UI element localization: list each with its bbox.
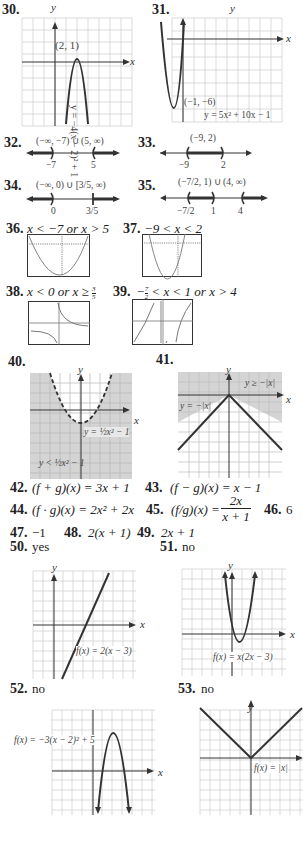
problem-number-35: 35. [138,178,156,194]
tick-label: 1 [211,206,216,216]
y-axis-label: y [228,559,233,571]
answer-53: no [201,681,214,697]
calculator-screen-36 [27,234,90,277]
x-axis-label: x [134,414,139,426]
boundary-equation: y = ½x² − 1 [84,427,129,437]
function-label: f(x) = x(2x − 3) [213,652,273,662]
problem-number-46: 46. [264,502,282,518]
problem-number-41: 41. [156,352,174,368]
interval-notation: (−7/2, 1) ∪ (4, ∞) [178,176,246,187]
fraction: 2x x + 1 [221,493,251,524]
problem-number-39: 39. [113,284,131,300]
region-inequality: y < ½x² − 1 [39,458,84,468]
y-axis-label: y [51,1,56,13]
number-line-32 [26,146,120,160]
problem-number-38: 38. [6,284,24,300]
boundary-equation: y = −|x| [180,401,211,411]
tick-label: −7 [46,160,56,170]
interval-notation: (−9, 2) [190,133,216,143]
fraction: 35 [92,286,96,301]
problem-number-42: 42. [10,480,28,496]
calculator-screen-38 [28,301,90,345]
answer-52: no [32,681,45,697]
answer-50: yes [32,539,49,555]
calculator-screen-37 [142,234,202,277]
answer-42: (f + g)(x) = 3x + 1 [32,480,130,496]
tick-label: 4 [238,206,243,216]
y-axis-label: y [230,2,235,14]
number-line-33 [160,146,252,160]
problem-number-32: 32. [4,135,22,151]
problem-number-36: 36. [6,221,24,237]
problem-number-45: 45. [146,502,164,518]
tick-label: −9 [179,160,189,170]
x-axis-label: x [286,393,291,405]
problem-number-40: 40. [8,354,26,370]
problem-number-44: 44. [10,502,28,518]
problem-number-33: 33. [138,135,156,151]
x-axis-label: x [286,32,291,44]
tick-label: 2 [221,160,226,170]
interval-notation: (−∞, −7) ∪ (5, ∞) [36,135,104,146]
x-axis-label: x [130,55,135,67]
number-line-34 [26,192,120,206]
answer-51: no [182,539,195,555]
x-axis-label: x [140,618,145,630]
y-axis-label: y [78,363,83,375]
problem-number-37: 37. [123,221,141,237]
problem-number-52: 52. [10,681,28,697]
answer-45-prefix: (f/g)(x) = [171,502,220,518]
problem-number-48: 48. [64,525,82,541]
problem-number-53: 53. [178,681,196,697]
function-label: f(x) = |x| [254,763,288,773]
answer-38: x < 0 or x ≥ 35 [27,284,96,301]
answer-44: (f · g)(x) = 2x² + 2x [32,502,134,518]
region-inequality: y ≥ −|x| [245,378,275,388]
vertex-label: (2, 1) [55,39,79,51]
tick-label: −7/2 [177,206,195,216]
answer-48: 2(x + 1) [88,525,131,541]
tick-label: 5 [91,160,96,170]
tick-label: 3/5 [86,206,98,216]
problem-number-43: 43. [145,480,163,496]
number-line-35 [160,191,270,205]
problem-number-31: 31. [152,2,170,18]
graph-52 [52,710,155,815]
problem-number-30: 30. [2,2,20,18]
graph-50 [33,571,136,679]
equation-label: y = 5x² + 10x − 1 [204,110,270,120]
x-axis-label: x [158,766,163,778]
vertex-label: (−1, −6) [184,97,215,107]
y-axis-label: y [226,363,231,375]
interval-notation: (−∞, 0) ∪ [3/5, ∞) [36,179,106,190]
problem-number-51: 51. [160,539,178,555]
problem-number-49: 49. [137,525,155,541]
problem-number-34: 34. [4,178,22,194]
y-axis-label: y [248,701,253,713]
tick-label: 0 [51,206,56,216]
problem-number-50: 50. [10,539,28,555]
function-label: f(x) = 2(x − 3) [76,646,132,656]
x-axis-label: x [290,628,295,640]
answer-46: 6 [286,502,293,518]
calculator-screen-39 [132,299,193,345]
y-axis-label: y [52,561,57,573]
function-label: f(x) = −3(x − 2)² + 5 [14,735,95,745]
